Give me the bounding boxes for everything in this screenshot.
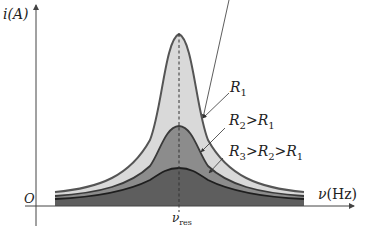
r1-pointer: [203, 0, 229, 118]
r1-label: R1: [229, 79, 247, 98]
r2-label: R2>R1: [228, 112, 275, 131]
origin-label: O: [24, 191, 35, 206]
r3-label: R3>R2>R1: [228, 143, 303, 162]
r1-pointer-line: [203, 93, 229, 118]
resonance-label: νres: [172, 211, 192, 227]
y-axis-label: i(A): [3, 6, 29, 22]
resonance-diagram: i(A) ν(Hz) O νres R1 R2>R1 R3>R2>R1: [0, 0, 366, 231]
x-axis-label: ν(Hz): [318, 186, 357, 202]
